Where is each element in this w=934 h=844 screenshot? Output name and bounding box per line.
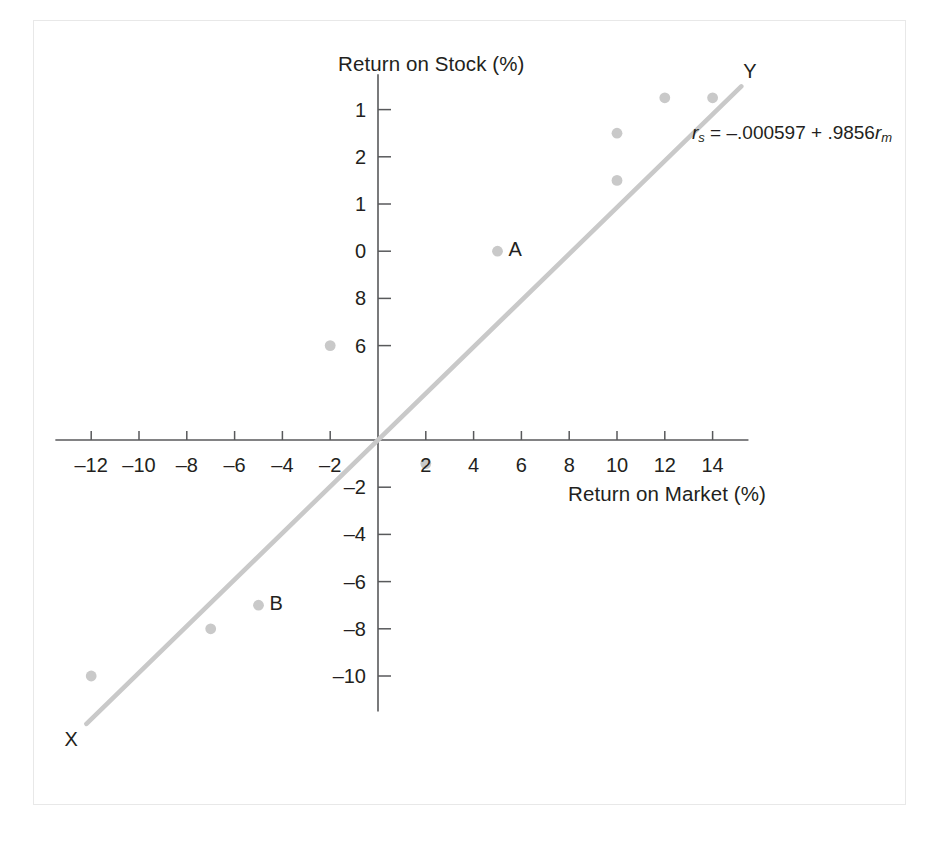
y-tick-label: –8 [344,617,366,640]
data-point [253,600,264,611]
y-tick-label: –6 [344,570,366,593]
data-points-group [86,92,718,681]
y-tick-label: –10 [333,665,366,688]
x-tick-label: 10 [606,454,628,477]
x-axis-title: Return on Market (%) [568,482,766,506]
point-label-a: A [509,238,522,261]
data-point [707,92,718,103]
equation-equals: = [705,122,727,143]
y-tick-label: –2 [344,476,366,499]
y-tick-label: 6 [355,334,366,357]
x-tick-label: –2 [319,454,341,477]
y-tick-label: –4 [344,523,366,546]
y-axis-title: Return on Stock (%) [338,52,524,76]
regression-equation-annotation: rs = –.000597 + .9856rm [692,122,892,145]
regression-fit-line [86,86,741,723]
equation-intercept: –.000597 [726,122,805,143]
data-point [205,623,216,634]
data-point [86,671,97,682]
x-tick-label: 2 [420,454,431,477]
data-point [492,246,503,257]
x-tick-label: 14 [701,454,723,477]
y-tick-label: 1 [355,193,366,216]
y-tick-label: 1 [355,98,366,121]
y-tick-label: 2 [355,145,366,168]
x-tick-label: 4 [468,454,479,477]
x-tick-label: 8 [564,454,575,477]
x-tick-label: –6 [223,454,245,477]
x-tick-label: 12 [654,454,676,477]
line-endpoint-label-x: X [64,728,77,751]
x-tick-label: 6 [516,454,527,477]
x-tick-label: –8 [176,454,198,477]
axes-group [55,74,748,711]
x-tick-label: –12 [75,454,108,477]
data-point [612,175,623,186]
x-tick-label: –10 [122,454,155,477]
regression-line [86,86,741,723]
line-endpoint-label-y: Y [743,60,756,83]
data-point [612,128,623,139]
point-label-b: B [270,592,283,615]
y-tick-label: 8 [355,287,366,310]
x-tick-label: –4 [271,454,293,477]
equation-rhs-subscript: m [881,130,892,145]
data-point [659,92,670,103]
data-point [325,340,336,351]
equation-slope: .9856 [827,122,875,143]
equation-plus: + [806,122,828,143]
y-tick-label: 0 [355,240,366,263]
